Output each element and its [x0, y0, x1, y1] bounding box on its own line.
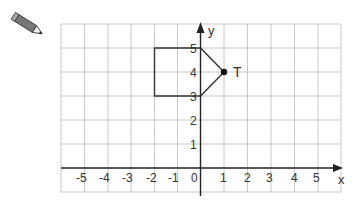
- y-tick-labels: 1 2 3 4 5: [190, 42, 197, 152]
- svg-text:5: 5: [313, 171, 320, 185]
- svg-text:-3: -3: [122, 171, 133, 185]
- svg-text:4: 4: [291, 171, 298, 185]
- svg-text:3: 3: [190, 90, 197, 104]
- svg-text:4: 4: [190, 66, 197, 80]
- y-axis-label: y: [208, 23, 215, 38]
- point-label-T: T: [233, 64, 242, 80]
- svg-text:2: 2: [244, 171, 251, 185]
- svg-text:2: 2: [190, 114, 197, 128]
- point-T: [221, 69, 227, 75]
- svg-text:-1: -1: [168, 171, 179, 185]
- svg-text:-5: -5: [76, 171, 87, 185]
- svg-text:-2: -2: [146, 171, 157, 185]
- svg-text:-4: -4: [99, 171, 110, 185]
- svg-text:5: 5: [190, 42, 197, 56]
- origin-label: 0: [191, 171, 198, 185]
- pencil-icon: [11, 12, 44, 37]
- svg-text:3: 3: [266, 171, 273, 185]
- coordinate-diagram: T y x 0 -5 -4 -3 -2 -1 1 2 3 4 5 1 2 3 4…: [0, 0, 359, 201]
- svg-text:1: 1: [190, 138, 197, 152]
- svg-text:1: 1: [220, 171, 227, 185]
- x-tick-labels: -5 -4 -3 -2 -1 1 2 3 4 5: [76, 171, 320, 185]
- x-axis-label: x: [338, 172, 345, 187]
